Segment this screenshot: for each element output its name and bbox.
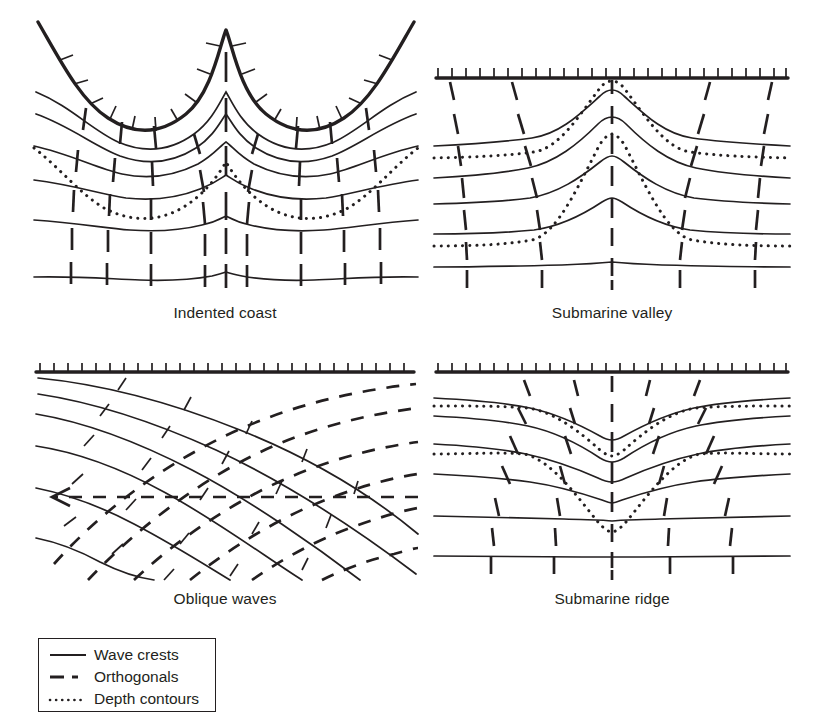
- wave-crest-group: [36, 378, 418, 580]
- panel-submarine-valley: Submarine valley: [432, 62, 792, 290]
- wave-crest: [434, 516, 790, 521]
- orthogonal-group: [54, 384, 418, 580]
- panel-submarine-ridge: Submarine ridge: [432, 358, 792, 580]
- dotted-line-sample: [47, 692, 89, 706]
- orthogonal-group: [71, 52, 381, 288]
- panel-label-oblique-waves: Oblique waves: [30, 590, 420, 608]
- panel-oblique-waves: Oblique waves: [30, 358, 420, 580]
- legend-item-wave-crests: Wave crests: [47, 644, 215, 666]
- dash-dot-line-sample: [47, 670, 89, 684]
- oblique-waves-diagram: [30, 358, 420, 580]
- legend-label-depth-contours: Depth contours: [94, 690, 199, 708]
- arrowhead-left: [52, 488, 70, 506]
- panel-indented-coast: Indented coast: [30, 22, 420, 290]
- orthogonal-group: [450, 80, 772, 290]
- indented-coast-diagram: [30, 22, 420, 290]
- crest-tick-group: [64, 378, 358, 580]
- legend-item-orthogonals: Orthogonals: [47, 666, 215, 688]
- panel-label-submarine-valley: Submarine valley: [432, 304, 792, 322]
- legend-label-orthogonals: Orthogonals: [94, 668, 178, 686]
- wave-crest: [38, 394, 416, 574]
- legend-label-wave-crests: Wave crests: [94, 646, 179, 664]
- submarine-ridge-diagram: [432, 358, 792, 580]
- depth-contour-group: [434, 81, 790, 246]
- solid-line-sample: [47, 648, 89, 662]
- panel-label-indented-coast: Indented coast: [30, 304, 420, 322]
- submarine-valley-diagram: [432, 62, 792, 290]
- panel-label-submarine-ridge: Submarine ridge: [432, 590, 792, 608]
- legend-item-depth-contours: Depth contours: [47, 688, 215, 710]
- legend-box: Wave crests Orthogonals Depth contours: [38, 638, 216, 712]
